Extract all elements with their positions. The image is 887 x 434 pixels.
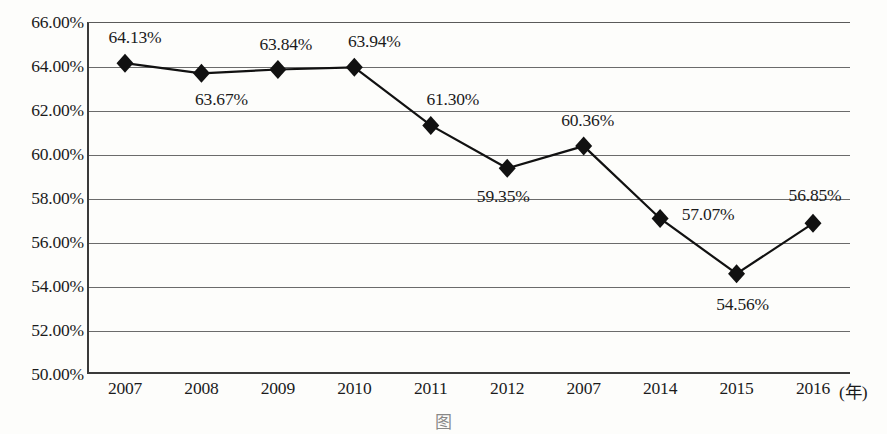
x-axis-tick-label: 2008 — [184, 378, 218, 399]
gridline — [89, 331, 850, 332]
gridline — [89, 287, 850, 288]
data-point-value-label: 63.84% — [259, 33, 312, 54]
gridline — [89, 67, 850, 68]
y-axis-tick-label: 58.00% — [0, 188, 84, 209]
gridline — [89, 243, 850, 244]
gridline — [89, 155, 850, 156]
y-axis-tick-label: 64.00% — [0, 56, 84, 77]
x-axis-unit-label: (年) — [839, 378, 868, 403]
plot-area — [87, 22, 850, 374]
y-axis-tick-label: 62.00% — [0, 100, 84, 121]
chart-figure: 66.00%64.00%62.00%60.00%58.00%56.00%54.0… — [0, 0, 887, 434]
data-point-value-label: 64.13% — [109, 27, 162, 48]
y-axis-tick-label: 66.00% — [0, 12, 84, 33]
data-point-value-label: 57.07% — [682, 204, 735, 225]
x-axis-tick-label: 2011 — [414, 378, 448, 399]
data-point-value-label: 54.56% — [716, 293, 769, 314]
x-axis-tick-label: 2010 — [337, 378, 371, 399]
x-axis-tick-label: 2007 — [567, 378, 601, 399]
figure-caption: 图 — [0, 408, 887, 434]
data-point-value-label: 61.30% — [426, 89, 479, 110]
x-axis-tick-label: 2015 — [719, 378, 753, 399]
gridline — [89, 111, 850, 112]
data-point-value-label: 56.85% — [789, 185, 842, 206]
x-axis-tick-label: 2016 — [796, 378, 830, 399]
y-axis-tick-label: 60.00% — [0, 144, 84, 165]
data-point-value-label: 60.36% — [561, 110, 614, 131]
x-axis-tick-label: 2012 — [490, 378, 524, 399]
y-axis-tick-label: 52.00% — [0, 320, 84, 341]
data-point-value-label: 63.67% — [195, 89, 248, 110]
y-axis-labels: 66.00%64.00%62.00%60.00%58.00%56.00%54.0… — [0, 0, 84, 434]
data-point-value-label: 63.94% — [348, 31, 401, 52]
x-axis-tick-label: 2009 — [261, 378, 295, 399]
x-axis-tick-label: 2014 — [643, 378, 677, 399]
y-axis-tick-label: 56.00% — [0, 232, 84, 253]
data-point-value-label: 59.35% — [477, 186, 530, 207]
x-axis-tick-label: 2007 — [108, 378, 142, 399]
y-axis-tick-label: 54.00% — [0, 276, 84, 297]
x-axis-labels: 2007200820092010201120122007201420152016… — [0, 378, 887, 404]
gridline — [89, 199, 850, 200]
